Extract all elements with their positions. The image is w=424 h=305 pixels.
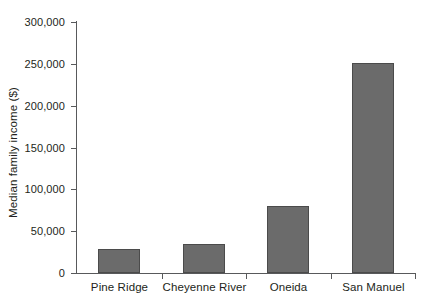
y-axis-tick-label: 200,000	[25, 100, 65, 112]
y-axis-tick	[71, 189, 77, 190]
y-axis-tick	[71, 22, 77, 23]
x-axis-tick	[331, 273, 332, 279]
bar	[183, 244, 225, 273]
x-axis-tick	[415, 273, 416, 279]
y-axis-tick-label: 0	[59, 267, 65, 279]
x-axis-category-label: Cheyenne River	[162, 281, 247, 293]
y-axis-tick	[71, 273, 77, 274]
x-axis-category-label: Oneida	[246, 281, 331, 293]
y-axis-title: Median family income ($)	[0, 0, 26, 305]
y-axis-tick	[71, 231, 77, 232]
bar	[98, 249, 140, 273]
bar	[267, 206, 309, 273]
y-axis-tick-label: 100,000	[25, 183, 65, 195]
y-axis-tick-label: 250,000	[25, 58, 65, 70]
y-axis-tick-label: 300,000	[25, 16, 65, 28]
bar-chart: Median family income ($) 050,000100,0001…	[0, 0, 424, 305]
y-axis-tick	[71, 106, 77, 107]
y-axis-tick-label: 150,000	[25, 142, 65, 154]
bar	[352, 63, 394, 273]
y-axis-tick-label: 50,000	[31, 225, 65, 237]
x-axis-tick	[246, 273, 247, 279]
x-axis-category-label: San Manuel	[331, 281, 416, 293]
x-axis-category-label: Pine Ridge	[77, 281, 162, 293]
y-axis-tick	[71, 64, 77, 65]
x-axis-tick	[162, 273, 163, 279]
y-axis-tick	[71, 148, 77, 149]
